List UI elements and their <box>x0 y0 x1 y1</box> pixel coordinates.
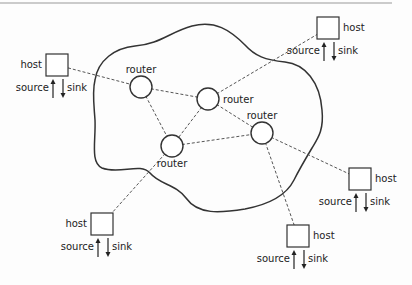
sink-label: sink <box>338 45 358 56</box>
host-node: hostsourcesink <box>257 225 335 269</box>
arrow-up-head-icon <box>96 238 101 243</box>
host-node: hostsourcesink <box>61 213 133 257</box>
routers-layer: routerrouterrouterrouter <box>126 64 278 169</box>
host-node: hostsourcesink <box>16 54 88 98</box>
link-r4-r3 <box>172 133 262 146</box>
network-diagram: routerrouterrouterrouter hostsourcesinkh… <box>0 0 412 285</box>
arrow-up-head-icon <box>51 79 56 84</box>
sink-label: sink <box>308 253 328 264</box>
arrow-up-head-icon <box>354 193 359 198</box>
router-circle-icon <box>130 76 152 98</box>
arrow-down-head-icon <box>332 56 337 61</box>
host-node: hostsourcesink <box>319 168 397 212</box>
host-box-icon <box>349 168 371 190</box>
arrow-down-head-icon <box>302 264 307 269</box>
arrow-down-head-icon <box>364 207 369 212</box>
host-box-icon <box>91 213 113 235</box>
diagram-svg: routerrouterrouterrouter hostsourcesinkh… <box>0 0 412 285</box>
links-layer <box>68 35 349 225</box>
host-label: host <box>65 218 87 229</box>
source-label: source <box>16 82 49 93</box>
host-node: hostsourcesink <box>287 17 365 61</box>
source-label: source <box>319 196 352 207</box>
router-node: router <box>126 64 157 98</box>
arrow-down-head-icon <box>106 252 111 257</box>
host-label: host <box>20 59 42 70</box>
router-node: router <box>197 88 254 110</box>
sink-label: sink <box>67 82 87 93</box>
router-label: router <box>126 64 157 75</box>
host-box-icon <box>317 17 339 39</box>
router-label: router <box>247 110 278 121</box>
host-box-icon <box>287 225 309 247</box>
router-label: router <box>157 158 188 169</box>
source-label: source <box>61 241 94 252</box>
source-label: source <box>287 45 320 56</box>
router-circle-icon <box>197 88 219 110</box>
sink-label: sink <box>370 196 390 207</box>
host-box-icon <box>46 54 68 76</box>
link-r4-h3 <box>112 146 172 213</box>
router-circle-icon <box>251 122 273 144</box>
host-label: host <box>343 22 365 33</box>
arrow-up-head-icon <box>292 250 297 255</box>
sink-label: sink <box>112 241 132 252</box>
link-r3-h5 <box>262 133 294 225</box>
link-r3-h4 <box>262 133 349 174</box>
router-label: router <box>223 94 254 105</box>
hosts-layer: hostsourcesinkhostsourcesinkhostsourcesi… <box>16 17 397 269</box>
router-circle-icon <box>161 135 183 157</box>
arrow-down-head-icon <box>61 93 66 98</box>
host-label: host <box>375 173 397 184</box>
arrow-up-head-icon <box>322 42 327 47</box>
host-label: host <box>313 230 335 241</box>
router-node: router <box>157 135 188 169</box>
source-label: source <box>257 253 290 264</box>
